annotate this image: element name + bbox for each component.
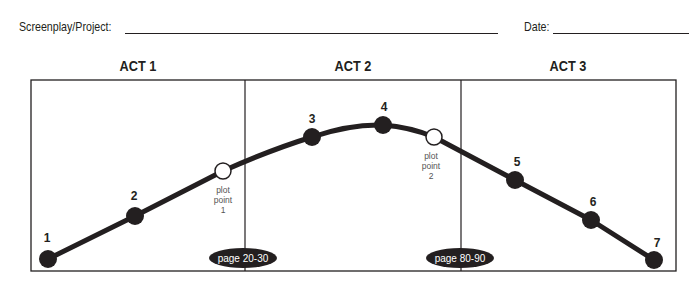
page-marker-1-label: page 20-30	[218, 253, 269, 264]
beat-4-marker	[374, 116, 392, 134]
plot-point-2-caption-line2: point	[422, 161, 441, 171]
beat-5-marker	[506, 171, 524, 189]
beat-6-label: 6	[590, 195, 597, 209]
beat-3-label: 3	[309, 112, 316, 126]
beat-6-marker	[582, 211, 600, 229]
beat-5-label: 5	[514, 155, 521, 169]
page-marker-2-label: page 80-90	[435, 253, 486, 264]
beat-1-label: 1	[44, 231, 51, 245]
beat-4-label: 4	[381, 100, 388, 114]
beat-2-marker	[126, 207, 144, 225]
beat-3-marker	[303, 128, 321, 146]
plot-point-2-caption-line1: plot	[424, 151, 438, 161]
story-arc-diagram: 1 2 3 4 5 6 7 plot point 1 plot point 2 …	[0, 0, 696, 292]
beat-1-marker	[39, 250, 57, 268]
diagram-frame	[31, 80, 676, 271]
plot-point-1-caption-line3: 1	[221, 205, 226, 215]
plot-point-1-marker	[215, 163, 231, 179]
plot-point-1-caption-line2: point	[214, 195, 233, 205]
beat-2-label: 2	[131, 189, 138, 203]
plot-point-2-caption-line3: 2	[429, 171, 434, 181]
story-arc-line	[48, 125, 654, 260]
beat-7-marker	[645, 251, 663, 269]
plot-point-2-marker	[426, 129, 442, 145]
beat-7-label: 7	[654, 236, 661, 250]
plot-point-1-caption-line1: plot	[216, 185, 230, 195]
